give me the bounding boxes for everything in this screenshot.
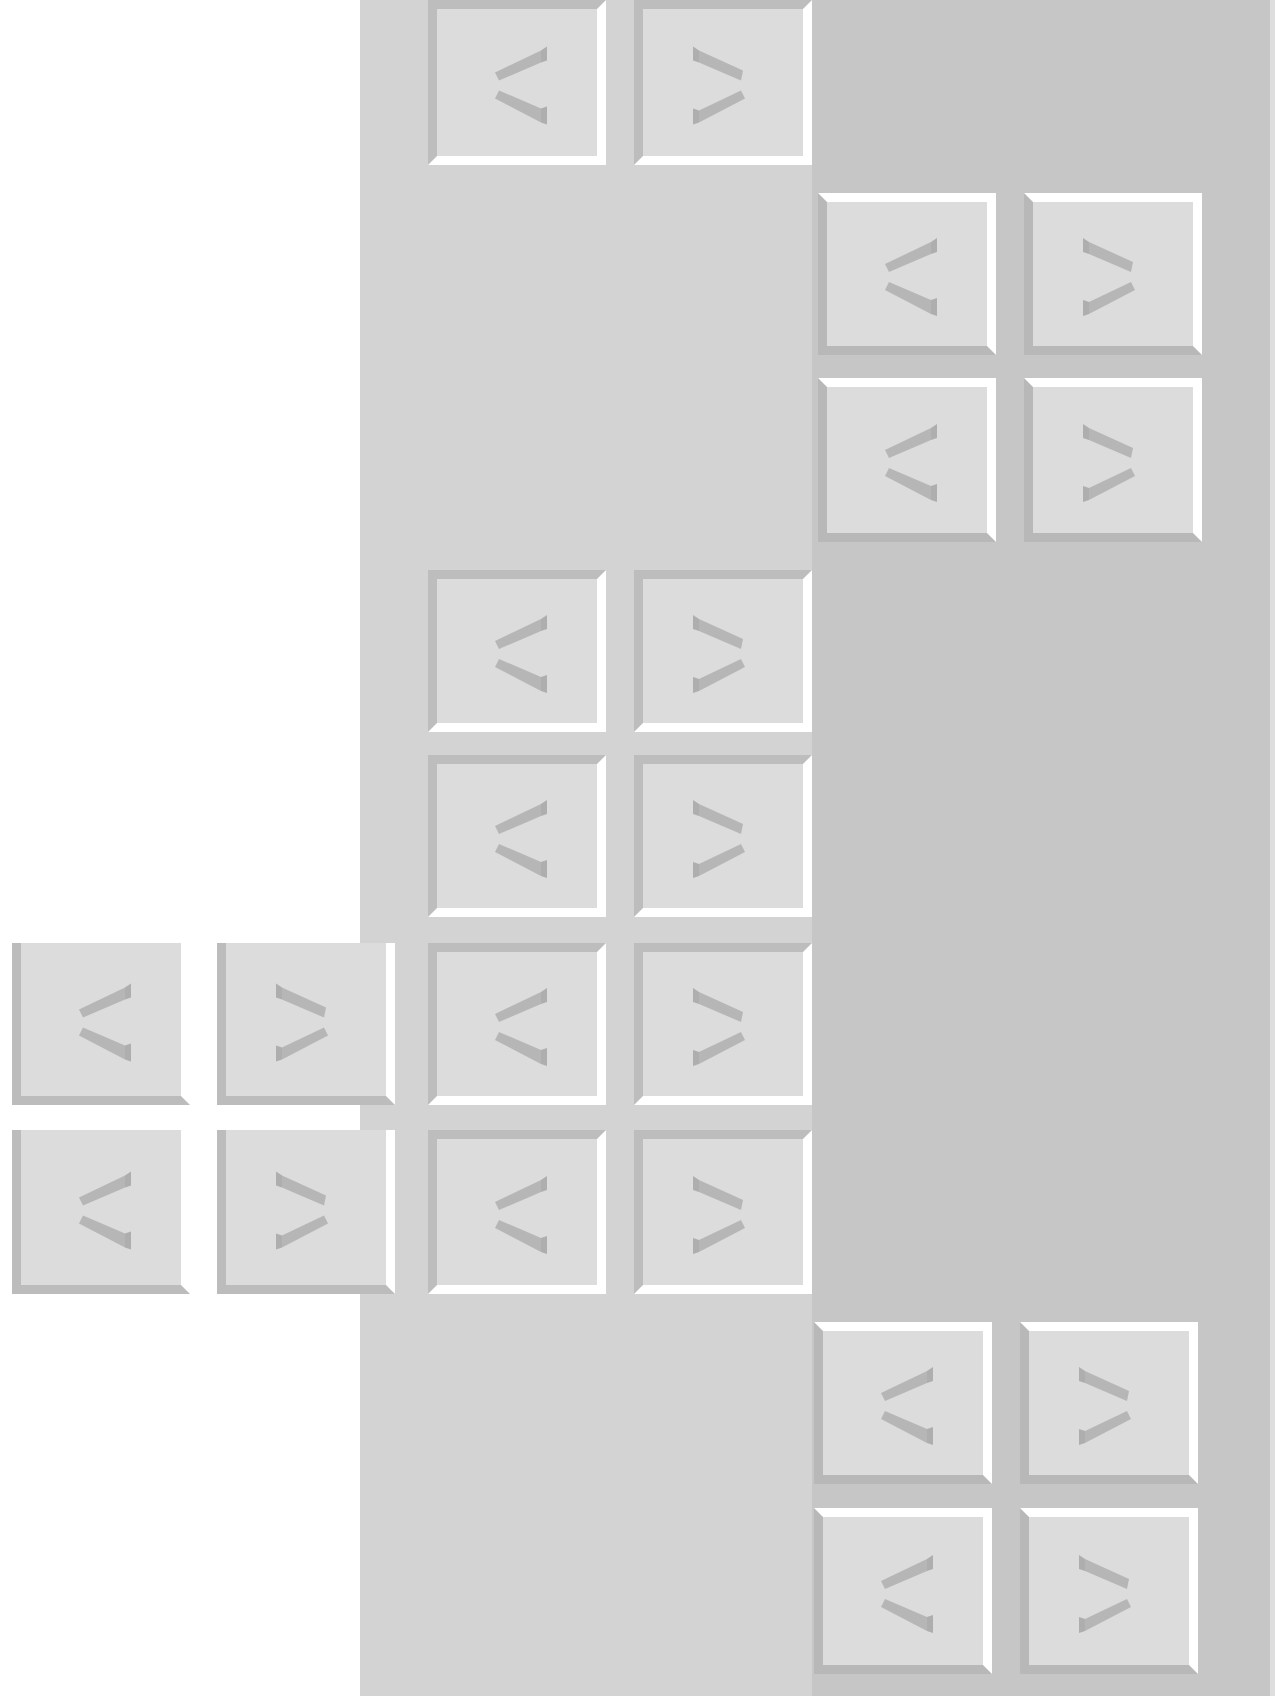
chevron-left-icon (827, 202, 987, 346)
previous-button[interactable] (12, 943, 190, 1105)
previous-button[interactable] (428, 570, 606, 732)
chevron-left-icon (823, 1517, 983, 1665)
chevron-right-icon (1033, 202, 1193, 346)
chevron-right-icon (1033, 387, 1193, 533)
previous-button[interactable] (428, 943, 606, 1105)
previous-button[interactable] (818, 193, 996, 355)
chevron-left-icon (437, 764, 597, 908)
chevron-left-icon (437, 1139, 597, 1285)
chevron-left-icon (437, 952, 597, 1096)
next-button[interactable] (217, 1130, 395, 1294)
chevron-left-icon (21, 1130, 181, 1285)
chevron-left-icon (827, 387, 987, 533)
next-button[interactable] (634, 1130, 812, 1294)
chevron-right-icon (1029, 1331, 1189, 1475)
chevron-left-icon (437, 9, 597, 156)
previous-button[interactable] (428, 1130, 606, 1294)
right-edge-strip (1270, 0, 1275, 1696)
next-button[interactable] (1024, 378, 1202, 542)
chevron-right-icon (643, 9, 803, 156)
previous-button[interactable] (428, 755, 606, 917)
chevron-right-icon (226, 943, 386, 1096)
next-button[interactable] (634, 943, 812, 1105)
previous-button[interactable] (814, 1322, 992, 1484)
next-button[interactable] (1024, 193, 1202, 355)
chevron-right-icon (226, 1130, 386, 1285)
next-button[interactable] (634, 570, 812, 732)
chevron-right-icon (643, 579, 803, 723)
next-button[interactable] (1020, 1322, 1198, 1484)
next-button[interactable] (217, 943, 395, 1105)
previous-button[interactable] (814, 1508, 992, 1674)
next-button[interactable] (634, 755, 812, 917)
next-button[interactable] (1020, 1508, 1198, 1674)
next-button[interactable] (634, 0, 812, 165)
chevron-left-icon (21, 943, 181, 1096)
chevron-right-icon (643, 952, 803, 1096)
chevron-right-icon (643, 764, 803, 908)
previous-button[interactable] (12, 1130, 190, 1294)
chevron-right-icon (643, 1139, 803, 1285)
chevron-left-icon (823, 1331, 983, 1475)
chevron-right-icon (1029, 1517, 1189, 1665)
chevron-left-icon (437, 579, 597, 723)
previous-button[interactable] (818, 378, 996, 542)
previous-button[interactable] (428, 0, 606, 165)
